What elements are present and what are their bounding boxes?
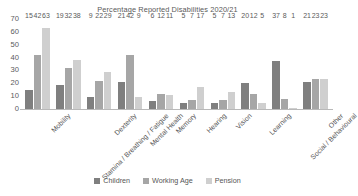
x-axis-category-label: Learning: [268, 112, 293, 137]
bar-group: 21429: [115, 19, 146, 109]
bar-value-label: 15: [25, 12, 33, 19]
bar-value-label: 5: [212, 12, 216, 19]
bar-value-label: 11: [166, 12, 173, 19]
bar[interactable]: 5: [180, 19, 188, 109]
bar-value-label: 23: [312, 12, 320, 19]
bar-value-label: 29: [104, 12, 112, 19]
bar-group: 154263: [22, 19, 53, 109]
bar[interactable]: 21: [118, 19, 126, 109]
bar[interactable]: 23: [320, 19, 328, 109]
bar-value-label: 13: [227, 12, 235, 19]
y-axis-tick-label: 10: [11, 92, 19, 100]
bar-rect: 7: [188, 100, 196, 109]
bar[interactable]: 15: [25, 19, 33, 109]
y-axis-tick-label: 40: [11, 54, 19, 62]
bar-group: 5713: [207, 19, 238, 109]
legend-item[interactable]: Pension: [206, 176, 241, 185]
bar[interactable]: 9: [135, 19, 143, 109]
bar-group-bars: 61211: [146, 19, 177, 109]
bar[interactable]: 5: [211, 19, 219, 109]
bar-rect: 9: [87, 97, 95, 109]
legend-label: Children: [103, 176, 130, 185]
bar[interactable]: 21: [303, 19, 311, 109]
bar-value-label: 22: [95, 12, 103, 19]
bar-rect: 37: [272, 61, 280, 109]
bar-rect: 23: [312, 79, 320, 109]
bar[interactable]: 9: [87, 19, 95, 109]
y-axis-tick-label: 0: [15, 105, 19, 113]
legend-item[interactable]: Working Age: [143, 176, 193, 185]
bar-rect: 13: [228, 92, 236, 109]
bar-value-label: 42: [34, 12, 42, 19]
bar[interactable]: 12: [250, 19, 258, 109]
bar[interactable]: 19: [56, 19, 64, 109]
bar[interactable]: 7: [219, 19, 227, 109]
plot-area: 1542631932389222921429612115717571320125…: [22, 19, 331, 109]
bar-value-label: 6: [151, 12, 155, 19]
bar-rect: 42: [34, 55, 42, 109]
bar[interactable]: 32: [65, 19, 73, 109]
bar-rect: 38: [73, 60, 81, 109]
bar[interactable]: 63: [42, 19, 50, 109]
bar-rect: 6: [149, 101, 157, 109]
bar-rect: 15: [25, 90, 33, 109]
bar-rect: 20: [241, 83, 249, 109]
bar-group-bars: 193238: [53, 19, 84, 109]
bar-value-label: 19: [56, 12, 64, 19]
bar[interactable]: 17: [197, 19, 205, 109]
bar[interactable]: 13: [228, 19, 236, 109]
legend-swatch-icon: [94, 178, 100, 184]
bar-value-label: 7: [190, 12, 194, 19]
bar-group: 92229: [84, 19, 115, 109]
bar-value-label: 9: [137, 12, 141, 19]
bar-rect: 12: [250, 94, 258, 109]
bar-rect: 23: [320, 79, 328, 109]
bar-rect: 22: [95, 81, 103, 109]
bar-group: 61211: [146, 19, 177, 109]
bar[interactable]: 20: [241, 19, 249, 109]
bar-rect: 5: [211, 103, 219, 109]
bar-value-label: 9: [89, 12, 93, 19]
bar-rect: 19: [56, 85, 64, 109]
x-axis-category-label: Mobility: [50, 112, 72, 134]
bar[interactable]: 12: [157, 19, 165, 109]
bar[interactable]: 42: [34, 19, 42, 109]
bar-rect: 32: [65, 68, 73, 109]
bar-value-label: 12: [157, 12, 165, 19]
bar-value-label: 21: [303, 12, 311, 19]
bar-group-bars: 212323: [300, 19, 331, 109]
legend-item[interactable]: Children: [94, 176, 130, 185]
bar-value-label: 20: [241, 12, 249, 19]
bar[interactable]: 37: [272, 19, 280, 109]
bar[interactable]: 23: [312, 19, 320, 109]
y-axis-tick-label: 30: [11, 67, 19, 75]
bar-group-bars: 92229: [84, 19, 115, 109]
legend-swatch-icon: [206, 178, 212, 184]
x-axis-category-label: Vision: [234, 112, 253, 131]
x-axis-category-labels: MobilityStamina / Breathing / FatigueDex…: [22, 110, 331, 168]
bar-value-label: 37: [272, 12, 280, 19]
bar[interactable]: 11: [166, 19, 174, 109]
bar-rect: 17: [197, 87, 205, 109]
bar[interactable]: 6: [149, 19, 157, 109]
legend-swatch-icon: [143, 178, 149, 184]
bar[interactable]: 7: [188, 19, 196, 109]
bar-rect: 8: [281, 99, 289, 109]
bar-rect: 7: [219, 100, 227, 109]
bar[interactable]: 38: [73, 19, 81, 109]
bar[interactable]: 42: [126, 19, 134, 109]
bar[interactable]: 29: [104, 19, 112, 109]
bar-group: 5717: [177, 19, 208, 109]
bar[interactable]: 5: [258, 19, 266, 109]
bar-rect: 42: [126, 55, 134, 109]
bar[interactable]: 22: [95, 19, 103, 109]
bar[interactable]: 1: [289, 19, 297, 109]
legend-label: Pension: [215, 176, 241, 185]
bar-group-bars: 154263: [22, 19, 53, 109]
bar-rect: 12: [157, 94, 165, 109]
bar[interactable]: 8: [281, 19, 289, 109]
bar-value-label: 21: [118, 12, 126, 19]
bar-group: 3781: [269, 19, 300, 109]
y-axis: 010203040506070: [0, 19, 20, 109]
